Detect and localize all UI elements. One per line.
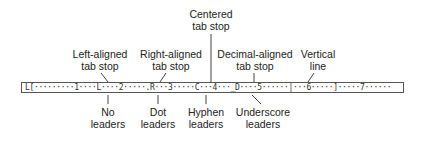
right-aligned-callout-line [160,73,166,82]
label-dot-leaders: Dot leaders [133,106,183,130]
label-left-aligned-tab-stop: Left-aligned tab stop [65,48,135,72]
label-hyphen-leaders: Hyphen leaders [180,106,232,130]
left-aligned-callout-line [101,73,108,82]
ruler-text: L[·········1····L····2·····.R···3·····C·… [25,83,391,93]
ruler: L[·········1····L····2·····.R···3·····C·… [21,82,404,93]
underscore-leaders-callout-line [252,95,261,104]
label-no-leaders: No leaders [83,106,133,130]
vertical-line-callout-line [308,73,314,82]
label-underscore-leaders: Underscore leaders [230,106,296,130]
label-vertical-line: Vertical line [296,48,340,72]
label-decimal-aligned-tab-stop: Decimal-aligned tab stop [214,48,296,72]
label-centered-tab-stop: Centered tab stop [181,8,241,32]
label-right-aligned-tab-stop: Right-aligned tab stop [134,48,208,72]
